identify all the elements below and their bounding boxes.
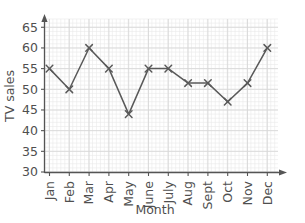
y-tick-label: 30 <box>22 164 38 179</box>
x-tick-label-nov: Nov <box>240 180 255 205</box>
y-axis-arrowhead <box>41 14 47 22</box>
x-tick-label-feb: Feb <box>62 181 77 203</box>
y-tick-label: 65 <box>22 20 38 35</box>
x-tick-label-dec: Dec <box>260 181 275 205</box>
y-tick-label: 55 <box>22 61 38 76</box>
y-tick-label: 40 <box>22 123 38 138</box>
x-axis-title: Month <box>135 202 174 217</box>
x-axis-arrowhead <box>279 169 287 175</box>
x-tick-label-mar: Mar <box>81 180 96 204</box>
x-tick-label-may: May <box>121 180 136 206</box>
y-tick-label: 50 <box>22 82 38 97</box>
x-tick-label-jan: Jan <box>42 181 57 201</box>
minor-gridlines <box>45 19 278 172</box>
x-tick-label-aug: Aug <box>181 181 196 205</box>
line-chart: 3035404550556065 JanFebMarAprMayJuneJuly… <box>0 0 305 223</box>
y-tick-label: 60 <box>22 40 38 55</box>
x-tick-label-july: July <box>161 180 176 204</box>
x-tick-label-sept: Sept <box>200 181 215 210</box>
x-tick-label-oct: Oct <box>220 181 235 203</box>
y-tick-label: 45 <box>22 102 38 117</box>
chart-canvas: 3035404550556065 JanFebMarAprMayJuneJuly… <box>0 0 305 223</box>
y-axis-tick-labels: 3035404550556065 <box>22 20 38 180</box>
x-tick-label-apr: Apr <box>101 180 116 202</box>
y-tick-label: 35 <box>22 144 38 159</box>
y-axis-title: TV sales <box>2 70 17 123</box>
